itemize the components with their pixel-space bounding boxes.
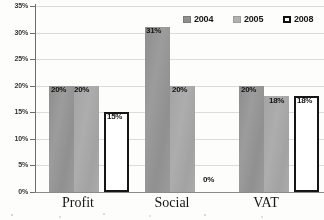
x-category-label-social: Social [122,195,222,211]
data-label-profit-2005: 20% [74,85,89,94]
legend-item-2008[interactable]: 2008 [283,14,313,24]
bar-vat-2004 [239,86,264,192]
y-tick-label-30: 30% [15,29,28,37]
scan-noise [0,210,324,220]
bar-social-2004 [145,27,170,192]
legend-label-2008: 2008 [294,14,313,24]
bar-profit-2004 [49,86,74,192]
y-tick-label-20: 20% [15,82,28,90]
x-category-label-profit: Profit [28,195,128,211]
bar-group-profit: 20% 20% 15% [49,6,125,192]
data-label-vat-2005: 18% [269,96,284,105]
bar-group-social: 31% 20% 0% [145,6,221,192]
plot-area: 20% 20% 15% 31% 20% 0% 20% 18% 18% [35,6,324,192]
bar-vat-2005 [264,96,289,192]
data-label-social-2005: 20% [172,85,187,94]
y-tick-5 [30,165,35,166]
data-label-vat-2004: 20% [241,85,256,94]
y-tick-25 [30,59,35,60]
legend-swatch-2008-icon [283,16,291,23]
y-tick-label-35: 35% [15,2,28,10]
bar-profit-2008 [104,112,129,192]
y-axis-line [35,4,36,193]
legend-item-2005[interactable]: 2005 [233,14,263,24]
y-tick-0 [30,192,35,193]
bar-chart: 20% 20% 15% 31% 20% 0% 20% 18% 18% [0,0,324,220]
legend-swatch-2005-icon [233,16,241,23]
y-tick-20 [30,86,35,87]
y-tick-label-5: 5% [18,161,28,169]
legend-swatch-2004-icon [183,16,191,23]
data-label-profit-2004: 20% [51,85,66,94]
y-tick-label-10: 10% [15,135,28,143]
bar-group-vat: 20% 18% 18% [239,6,315,192]
bar-social-2005 [170,86,195,192]
legend-item-2004[interactable]: 2004 [183,14,213,24]
x-category-label-vat: VAT [216,195,316,211]
y-tick-label-0: 0% [18,188,28,196]
bar-profit-2005 [74,86,99,192]
y-tick-30 [30,33,35,34]
legend-label-2005: 2005 [244,14,263,24]
bar-vat-2008 [294,96,319,192]
y-tick-label-15: 15% [15,108,28,116]
legend-label-2004: 2004 [194,14,213,24]
x-axis-line [35,192,324,193]
data-label-profit-2008: 15% [107,112,122,121]
y-tick-15 [30,112,35,113]
y-tick-10 [30,139,35,140]
data-label-vat-2008: 18% [297,96,312,105]
data-label-social-2004: 31% [146,26,161,35]
y-tick-35 [30,6,35,7]
y-tick-label-25: 25% [15,55,28,63]
data-label-social-2008: 0% [203,175,214,184]
